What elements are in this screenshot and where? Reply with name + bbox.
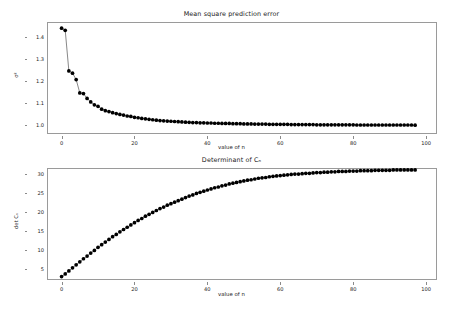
x-tick-mark — [62, 282, 63, 285]
y-axis-label-bottom: det Cₙ — [13, 199, 19, 243]
y-tick-mark — [25, 125, 28, 126]
y-tick-label: 20 — [38, 209, 44, 215]
x-tick-mark — [426, 136, 427, 139]
x-tick-mark — [134, 282, 135, 285]
plot-area-bottom — [47, 168, 437, 280]
y-tick-mark — [25, 269, 28, 270]
x-tick-mark — [207, 282, 208, 285]
y-tick-label: 1.0 — [36, 122, 44, 128]
y-tick-label: 1.1 — [36, 100, 44, 106]
y-axis-label-top: σ² — [13, 55, 19, 95]
y-tick-mark — [25, 103, 28, 104]
x-axis-label-bottom: value of n — [0, 291, 463, 297]
series-determinant-of-cn — [47, 168, 437, 280]
y-tick-mark — [25, 193, 28, 194]
y-tick-label: 15 — [38, 228, 44, 234]
x-tick-mark — [134, 136, 135, 139]
y-tick-mark — [25, 59, 28, 60]
x-tick-mark — [207, 136, 208, 139]
x-tick-mark — [353, 282, 354, 285]
y-tick-label: 10 — [38, 247, 44, 253]
y-axis-ticks-bottom: 51015202530 — [28, 168, 44, 280]
x-tick-mark — [62, 136, 63, 139]
y-tick-label: 30 — [38, 171, 44, 177]
series-mean-square-prediction-error — [47, 22, 437, 134]
plot-area-top — [47, 22, 437, 134]
x-tick-mark — [426, 282, 427, 285]
y-tick-label: 25 — [38, 190, 44, 196]
x-tick-mark — [280, 282, 281, 285]
y-axis-ticks-top: 1.01.11.21.31.4 — [28, 22, 44, 134]
y-tick-mark — [25, 37, 28, 38]
y-tick-label: 5 — [41, 266, 44, 272]
chart-title-bottom: Determinant of Cₙ — [0, 156, 463, 164]
x-tick-mark — [353, 136, 354, 139]
y-tick-mark — [25, 250, 28, 251]
y-tick-mark — [25, 212, 28, 213]
y-tick-label: 1.4 — [36, 34, 44, 40]
figure-canvas: Mean square prediction error σ² 1.01.11.… — [0, 0, 463, 311]
y-tick-mark — [25, 174, 28, 175]
y-tick-mark — [25, 231, 28, 232]
y-tick-mark — [25, 81, 28, 82]
x-tick-mark — [280, 136, 281, 139]
chart-title-top: Mean square prediction error — [0, 10, 463, 18]
y-tick-label: 1.2 — [36, 78, 44, 84]
y-tick-label: 1.3 — [36, 56, 44, 62]
x-axis-label-top: value of n — [0, 144, 463, 150]
